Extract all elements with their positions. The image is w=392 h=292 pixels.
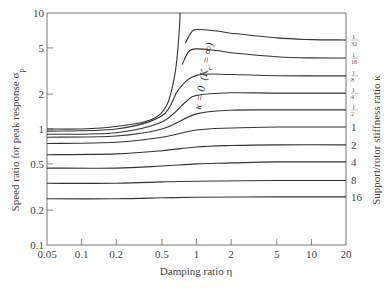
curve-kappa-8: [47, 180, 346, 183]
curve-kappa-16: [47, 197, 346, 199]
right-label-denominator: 16: [351, 59, 357, 65]
x-tick-label: 1: [194, 248, 200, 260]
right-label-denominator: 32: [351, 41, 357, 47]
right-axis-label: Support/rotor stiffness ratio κ: [370, 75, 382, 205]
x-tick-label: 0.5: [155, 248, 169, 260]
curve-kappa-1-32: [185, 29, 346, 43]
curve-kappa-0: [47, 13, 180, 129]
y-tick-label: 1: [39, 123, 45, 135]
annotation-end: = ∞): [199, 41, 216, 68]
right-label-denominator: 2: [351, 111, 354, 117]
curve-kappa-4: [47, 162, 346, 168]
curve-kappa-2: [47, 145, 346, 155]
y-tick-label: 0.2: [30, 204, 44, 216]
x-axis-label: Damping ratio η: [160, 265, 233, 277]
right-curve-label: 2: [351, 139, 357, 151]
y-axis-label-text: Speed ratio for peak response σ: [9, 73, 21, 212]
right-label-numerator: 1: [352, 70, 355, 76]
right-label-numerator: 1: [352, 87, 355, 93]
annotation-kappa: κ = 0: [191, 84, 207, 110]
right-curve-label: 1: [351, 121, 357, 133]
x-tick-label: 5: [274, 248, 280, 260]
x-tick-label: 20: [341, 248, 353, 260]
right-label-numerator: 1: [352, 104, 355, 110]
right-curve-label: 16: [351, 191, 363, 203]
y-tick-label: 0.5: [30, 158, 44, 170]
x-tick-label: 0.2: [109, 248, 123, 260]
y-tick-label: 5: [39, 42, 45, 54]
y-axis-label-subscript: p: [17, 69, 26, 73]
y-tick-label: 2: [39, 88, 45, 100]
y-axis-label: Speed ratio for peak response σp: [9, 69, 26, 212]
y-tick-label: 10: [33, 7, 45, 19]
curve-kappa-1: [47, 127, 346, 144]
right-curve-labels: 132116181412124816: [351, 34, 363, 203]
x-tick-label: 0.1: [75, 248, 89, 260]
x-tick-label: 2: [228, 248, 234, 260]
right-label-numerator: 1: [352, 34, 355, 40]
x-axis-ticks: 0.050.10.20.51251020: [37, 239, 352, 260]
right-label-denominator: 4: [351, 94, 354, 100]
curve-kappa-1-2: [47, 110, 346, 137]
chart-figure: 0.050.10.20.51251020 0.10.20.512510 1321…: [0, 0, 392, 292]
right-curve-label: 8: [351, 174, 357, 186]
right-label-denominator: 8: [351, 77, 354, 83]
right-label-numerator: 1: [352, 52, 355, 58]
y-tick-label: 0.1: [30, 239, 44, 251]
x-tick-label: 10: [306, 248, 318, 260]
right-curve-label: 4: [351, 156, 357, 168]
